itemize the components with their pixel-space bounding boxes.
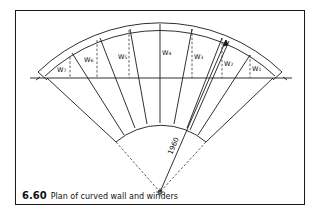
radius-label: 1960 [166,136,180,156]
end-tick-left [36,77,40,80]
radius-dimension-line [160,40,226,192]
figure-caption: 6.60Plan of curved wall and winders [22,190,178,201]
figure-title: Plan of curved wall and winders [51,192,178,201]
label-w2: W2 [224,60,233,68]
label-w5: W5 [118,53,127,61]
winder-line [72,53,124,135]
label-w7: W7 [57,66,66,74]
radius-left [116,142,160,192]
label-w6: W6 [84,56,93,64]
winder-line [47,78,116,142]
curved-wall-plan-drawing: W7 W6 W5 W4 W3 W2 W1 1960 [0,0,319,215]
winder-line [100,38,135,128]
well-arc [116,125,206,142]
label-w3: W3 [194,53,203,61]
label-w1: W1 [252,65,261,73]
winder-line [206,78,273,142]
end-tick-right [283,77,287,80]
figure-number: 6.60 [22,190,47,201]
winder-line [130,29,147,124]
winder-line [174,29,192,124]
label-w4: W4 [162,49,171,57]
